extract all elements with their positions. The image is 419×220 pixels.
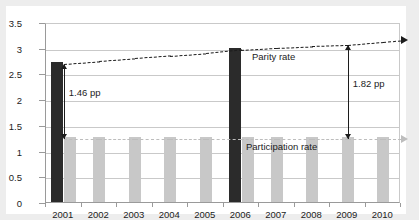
y-tick-label: 0.5 xyxy=(0,172,22,183)
x-tick-label-2009: 2009 xyxy=(336,209,357,220)
series-line-participation xyxy=(277,139,313,140)
series-arrow-parity xyxy=(401,36,408,44)
series-line-parity xyxy=(170,53,206,57)
bar-participation-2009 xyxy=(342,137,354,202)
x-tick-label-2002: 2002 xyxy=(88,209,109,220)
y-tick-label: 1.5 xyxy=(0,120,22,131)
series-line-participation xyxy=(312,139,348,140)
y-tick-label: 0 xyxy=(0,198,22,209)
series-line-participation xyxy=(383,139,401,140)
x-tick-mark xyxy=(152,203,153,207)
x-tick-mark xyxy=(365,203,366,207)
plot-area: 1.46 pp1.82 pp Parity rateParticipation … xyxy=(45,23,400,203)
bar-participation-2010 xyxy=(377,137,389,202)
x-tick-mark xyxy=(258,203,259,207)
series-line-participation xyxy=(348,139,384,140)
bar-participation-2003 xyxy=(129,137,141,202)
x-tick-label-2004: 2004 xyxy=(159,209,180,220)
series-line-parity xyxy=(99,58,135,62)
x-tick-label-2006: 2006 xyxy=(230,209,251,220)
annotation-label-1-46-pp: 1.46 pp xyxy=(69,87,101,98)
annotation-arrow-up-1-82-pp xyxy=(345,45,351,50)
series-line-parity xyxy=(277,46,313,49)
y-tick-label: 3 xyxy=(0,43,22,54)
y-tick-label: 2 xyxy=(0,95,22,106)
series-line-parity xyxy=(135,56,171,60)
series-line-parity xyxy=(312,45,348,47)
series-line-parity xyxy=(383,40,401,43)
y-tick-label: 2.5 xyxy=(0,69,22,80)
series-label-parity-rate: Parity rate xyxy=(252,51,295,62)
x-tick-mark xyxy=(329,203,330,207)
x-tick-label-2003: 2003 xyxy=(123,209,144,220)
x-tick-mark xyxy=(45,203,46,207)
annotation-arrow-down-1-46-pp xyxy=(61,134,67,139)
series-line-participation xyxy=(135,139,171,140)
series-line-parity xyxy=(64,61,100,65)
y-tick-label: 1 xyxy=(0,146,22,157)
chart-screenshot: 3.5 3 2.5 2 1.5 1 0.5 0 xyxy=(0,0,419,220)
x-tick-label-2005: 2005 xyxy=(194,209,215,220)
y-tick-label: 3.5 xyxy=(0,18,22,29)
series-line-participation xyxy=(99,139,135,140)
x-tick-mark xyxy=(187,203,188,207)
annotation-arrow-up-1-46-pp xyxy=(61,64,67,69)
series-line-participation xyxy=(241,139,277,140)
series-line-participation xyxy=(64,139,100,140)
x-tick-mark xyxy=(400,203,401,207)
annotation-arrow-down-1-82-pp xyxy=(345,134,351,139)
series-arrow-participation xyxy=(401,135,408,143)
bar-participation-2005 xyxy=(200,137,212,202)
x-tick-label-2007: 2007 xyxy=(265,209,286,220)
x-tick-mark xyxy=(294,203,295,207)
annotation-stem-1-46-pp xyxy=(64,64,65,139)
bar-participation-2001 xyxy=(64,137,76,202)
x-tick-mark xyxy=(223,203,224,207)
series-line-participation xyxy=(206,139,242,140)
annotation-stem-1-82-pp xyxy=(348,45,349,139)
bar-participation-2004 xyxy=(164,137,176,202)
gridline xyxy=(46,127,399,128)
annotation-label-1-82-pp: 1.82 pp xyxy=(353,78,385,89)
bar-parity-2001 xyxy=(51,62,63,202)
bar-parity-2006 xyxy=(229,48,241,202)
series-line-participation xyxy=(170,139,206,140)
x-tick-label-2001: 2001 xyxy=(52,209,73,220)
series-label-participation-rate: Participation rate xyxy=(246,141,317,152)
x-tick-mark xyxy=(116,203,117,207)
chart-canvas: 3.5 3 2.5 2 1.5 1 0.5 0 xyxy=(6,6,406,214)
x-tick-label-2010: 2010 xyxy=(372,209,393,220)
gridline xyxy=(46,75,399,76)
x-tick-mark xyxy=(81,203,82,207)
x-tick-label-2008: 2008 xyxy=(301,209,322,220)
gridline xyxy=(46,101,399,102)
series-line-parity xyxy=(348,42,384,46)
bar-participation-2002 xyxy=(93,137,105,202)
